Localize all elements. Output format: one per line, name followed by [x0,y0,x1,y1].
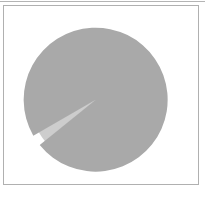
pie-chart-figure [0,0,206,198]
pie-slice-minor-exploded[interactable] [24,28,168,172]
pie-slices-group [24,28,168,172]
pie-chart-canvas [0,0,206,198]
